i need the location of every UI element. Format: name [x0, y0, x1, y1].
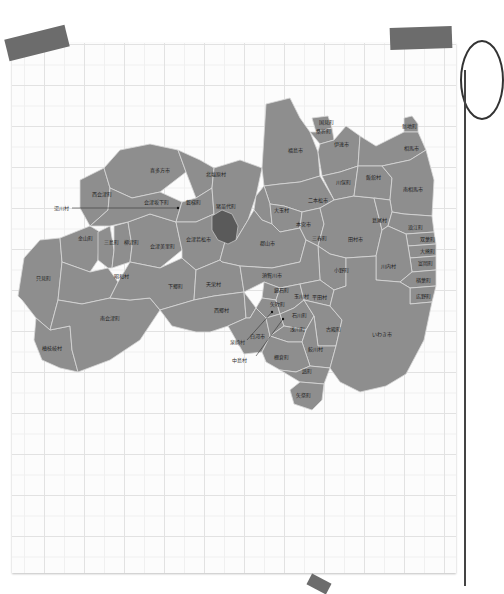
- label-shimogo: 下郷町: [168, 283, 183, 290]
- region-fukushima[interactable]: [262, 98, 320, 186]
- label-fukushima: 福島市: [288, 147, 303, 154]
- label-furudono: 古殿町: [326, 326, 341, 333]
- label-yugawa: 湯川村: [54, 205, 69, 212]
- label-minamisoma: 南相馬市: [403, 186, 423, 193]
- region-kitakata[interactable]: [104, 144, 186, 198]
- label-tomioka: 富岡町: [418, 260, 433, 267]
- label-kaneyama: 金山町: [78, 235, 93, 242]
- marker-nakajima: [282, 318, 284, 320]
- label-aizuwakamatsu: 会津若松市: [186, 236, 211, 243]
- label-tamura: 田村市: [348, 236, 363, 243]
- label-kunimi: 国見町: [319, 119, 334, 126]
- label-minamiaizu: 南会津町: [100, 315, 120, 322]
- label-nihonmatsu: 二本松市: [308, 197, 328, 204]
- label-yanaizu: 柳津町: [124, 239, 139, 246]
- label-hinoemata: 檜枝岐村: [42, 345, 62, 352]
- label-koori: 桑折町: [316, 128, 331, 135]
- label-iwaki: いわき市: [372, 331, 392, 338]
- label-kawauchi: 川内村: [381, 263, 396, 270]
- label-tanagura: 棚倉町: [274, 354, 289, 361]
- label-ishikawa: 石川町: [292, 312, 307, 319]
- label-samegawa: 鮫川村: [308, 346, 323, 353]
- label-nakajima: 中島村: [232, 357, 247, 364]
- label-futaba: 双葉町: [420, 236, 435, 243]
- label-mishima: 三島町: [104, 239, 119, 246]
- label-kitashiobara: 北塩原村: [206, 171, 226, 178]
- label-namie: 浪江町: [408, 224, 423, 231]
- label-tadami: 只見町: [36, 275, 51, 282]
- label-tenei: 天栄村: [206, 281, 221, 288]
- label-yabuki: 矢吹町: [270, 301, 285, 308]
- label-izumizaki: 泉崎村: [230, 339, 245, 346]
- label-yamatsuri: 矢祭町: [296, 392, 311, 399]
- label-kagamiishi: 鏡石町: [274, 287, 289, 294]
- label-iitate: 飯舘村: [366, 174, 381, 181]
- label-hirata: 平田村: [312, 294, 327, 301]
- label-soma: 相馬市: [404, 145, 419, 152]
- label-miharu: 三春町: [312, 235, 327, 242]
- label-hirono: 広野町: [416, 293, 431, 300]
- label-bandai: 磐梯町: [186, 199, 201, 206]
- label-tamakawa: 玉川村: [294, 293, 309, 299]
- label-shinchi: 新地町: [402, 123, 417, 130]
- label-hanawa: 塙町: [302, 368, 312, 375]
- label-shirakawa: 白河市: [250, 333, 265, 340]
- region-tamura[interactable]: [318, 196, 382, 258]
- label-naraha: 楢葉町: [416, 277, 431, 284]
- label-showa: 昭和村: [114, 273, 129, 280]
- label-okuma: 大熊町: [420, 248, 435, 255]
- label-motomiya: 本宮市: [296, 221, 311, 228]
- label-aizubange: 会津坂下町: [144, 199, 169, 206]
- label-sukagawa: 須賀川市: [262, 272, 282, 279]
- label-nishiaizu: 西会津町: [92, 191, 112, 198]
- label-inawashiro: 猪苗代町: [216, 203, 236, 210]
- label-koriyama: 郡山市: [260, 240, 275, 247]
- label-ono: 小野町: [334, 267, 349, 274]
- label-nishigo: 西郷村: [214, 307, 229, 314]
- label-kitakata: 喜多方市: [150, 167, 170, 174]
- label-asakawa: 浅川町: [290, 326, 305, 332]
- label-aizumisato: 会津美里町: [150, 243, 175, 250]
- region-mishima[interactable]: [98, 226, 114, 268]
- label-katsurao: 葛尾村: [372, 217, 387, 224]
- label-otama: 大玉村: [274, 207, 289, 214]
- marker-izumizaki: [271, 311, 273, 313]
- marker-yugawa: [177, 207, 179, 209]
- label-date: 伊達市: [334, 141, 349, 148]
- label-kawamata: 川俣町: [336, 179, 351, 186]
